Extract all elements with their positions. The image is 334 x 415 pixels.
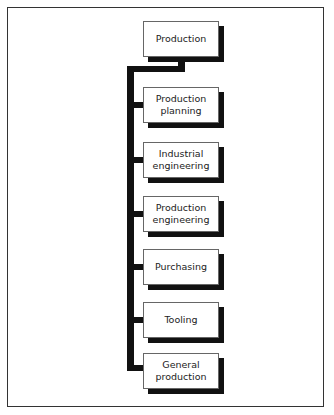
connector-branch-4 — [127, 264, 143, 270]
node-industrial-engineering: Industrial engineering — [143, 142, 219, 178]
connector-branch-5 — [127, 317, 143, 323]
node-label: Production — [156, 33, 207, 45]
connector-branch-2 — [127, 157, 143, 163]
node-tooling: Tooling — [143, 302, 219, 338]
node-purchasing: Purchasing — [143, 249, 219, 285]
connector-branch-6 — [127, 365, 143, 371]
node-label: Industrial engineering — [153, 148, 210, 172]
connector-horizontal-top — [127, 66, 185, 72]
node-production: Production — [143, 21, 219, 57]
node-label: General production — [155, 359, 206, 383]
node-label: Purchasing — [155, 261, 207, 273]
node-general-production: General production — [143, 353, 219, 389]
node-production-engineering: Production engineering — [143, 196, 219, 232]
connector-branch-1 — [127, 102, 143, 108]
node-production-planning: Production planning — [143, 87, 219, 123]
node-label: Tooling — [164, 314, 197, 326]
connector-spine — [127, 66, 134, 371]
connector-branch-3 — [127, 211, 143, 217]
node-label: Production planning — [156, 93, 207, 117]
node-label: Production engineering — [153, 202, 210, 226]
